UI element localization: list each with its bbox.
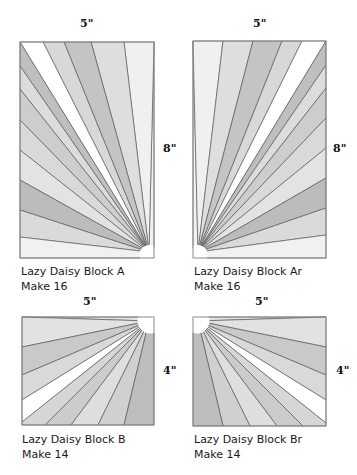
block-br-caption: Lazy Daisy Block Br Make 14 xyxy=(194,432,302,462)
block-b-width-label: 5" xyxy=(83,295,96,308)
block-br-height-label: 4" xyxy=(336,364,349,377)
block-br-title: Lazy Daisy Block Br xyxy=(194,432,302,447)
block-br-diagram xyxy=(193,317,326,426)
block-b-height-label: 4" xyxy=(163,364,176,377)
block-b-quantity: Make 14 xyxy=(22,447,125,462)
block-ar-diagram xyxy=(193,41,326,258)
block-ar-caption: Lazy Daisy Block Ar Make 16 xyxy=(194,264,302,294)
block-ar-quantity: Make 16 xyxy=(194,279,302,294)
block-b-title: Lazy Daisy Block B xyxy=(22,432,125,447)
block-b-diagram xyxy=(22,317,154,425)
block-ar-height-label: 8" xyxy=(333,142,346,155)
block-a-quantity: Make 16 xyxy=(21,279,124,294)
block-br-width-label: 5" xyxy=(255,295,268,308)
block-b-caption: Lazy Daisy Block B Make 14 xyxy=(22,432,125,462)
block-a-caption: Lazy Daisy Block A Make 16 xyxy=(21,264,124,294)
quilt-diagrams xyxy=(0,0,357,475)
block-ar-title: Lazy Daisy Block Ar xyxy=(194,264,302,279)
block-br-quantity: Make 14 xyxy=(194,447,302,462)
block-a-diagram xyxy=(20,42,154,258)
block-ar-width-label: 5" xyxy=(253,17,266,30)
block-a-title: Lazy Daisy Block A xyxy=(21,264,124,279)
